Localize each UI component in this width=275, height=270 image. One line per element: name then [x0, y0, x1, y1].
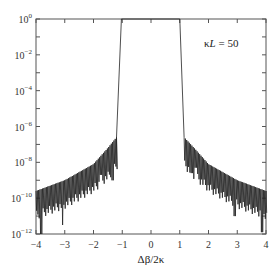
x-tick-label: 4 [264, 239, 269, 250]
y-tick-label: 10−6 [15, 120, 33, 133]
x-tick-labels: −4−3−2−101234 [31, 239, 269, 250]
y-tick-label: 100 [19, 12, 33, 25]
x-tick-label: −3 [59, 239, 70, 250]
y-tick-label: 10−8 [15, 155, 33, 168]
x-axis-label: Δβ/2κ [138, 253, 165, 265]
x-tick-label: 2 [206, 239, 211, 250]
x-tick-label: 3 [235, 239, 240, 250]
y-tick-label: 10−4 [15, 84, 33, 97]
x-tick-label: −1 [117, 239, 128, 250]
y-tick-label: 10−2 [15, 48, 33, 61]
data-curve [36, 19, 267, 234]
reflectivity-chart: −4−3−2−101234 10010−210−410−610−810−1010… [0, 0, 275, 270]
y-tick-label: 10−10 [11, 191, 32, 204]
x-tick-label: 1 [177, 239, 182, 250]
x-tick-label: −4 [31, 239, 42, 250]
y-tick-labels: 10010−210−410−610−810−1010−12 [11, 12, 32, 240]
kappa-l-annotation: κL = 50 [204, 37, 239, 49]
y-tick-label: 10−12 [11, 227, 32, 240]
x-tick-label: −2 [88, 239, 99, 250]
x-tick-label: 0 [149, 239, 154, 250]
